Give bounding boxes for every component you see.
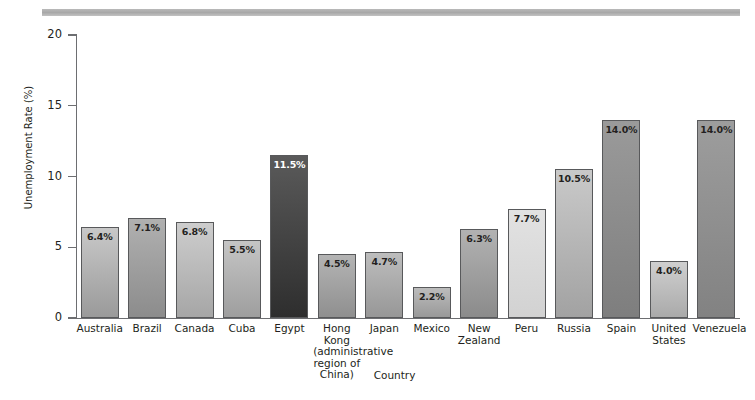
bar[interactable]: 2.2% [413, 287, 451, 318]
bar-rect: 14.0% [602, 120, 640, 318]
bar[interactable]: 10.5% [555, 169, 593, 318]
bar-value-label: 14.0% [698, 125, 734, 135]
y-axis-tick-label: 20 [22, 29, 62, 41]
bar-rect: 5.5% [223, 240, 261, 318]
bar-value-label: 5.5% [224, 245, 260, 255]
y-axis-tick-label: 5 [22, 241, 62, 253]
bar-rect: 2.2% [413, 287, 451, 318]
x-axis-tick-label: United States [645, 323, 692, 346]
bar[interactable]: 11.5% [270, 155, 308, 318]
bar-rect: 10.5% [555, 169, 593, 318]
x-axis-tick-label: Canada [171, 323, 218, 335]
bar-rect: 7.7% [508, 209, 546, 318]
plot-area: 6.4%7.1%6.8%5.5%11.5%4.5%4.7%2.2%6.3%7.7… [76, 35, 740, 318]
bar[interactable]: 4.5% [318, 254, 356, 318]
bar-value-label: 4.5% [319, 259, 355, 269]
bar[interactable]: 6.4% [81, 227, 119, 318]
bar[interactable]: 7.7% [508, 209, 546, 318]
bar-value-label: 6.3% [461, 234, 497, 244]
bar[interactable]: 7.1% [128, 218, 166, 318]
bar[interactable]: 4.7% [365, 252, 403, 319]
bar[interactable]: 6.3% [460, 229, 498, 318]
bar-value-label: 10.5% [556, 174, 592, 184]
bar-value-label: 6.4% [82, 232, 118, 242]
bar[interactable]: 14.0% [602, 120, 640, 318]
bar-rect: 4.5% [318, 254, 356, 318]
bar-value-label: 6.8% [177, 227, 213, 237]
bar-rect: 14.0% [697, 120, 735, 318]
top-rule-divider [42, 9, 740, 16]
x-axis-line [76, 318, 740, 319]
bar-rect: 6.8% [176, 222, 214, 318]
bar-value-label: 2.2% [414, 292, 450, 302]
bar-rect: 6.4% [81, 227, 119, 318]
bar-rect: 4.7% [365, 252, 403, 319]
bar[interactable]: 6.8% [176, 222, 214, 318]
x-axis-title-text: Country [374, 369, 416, 381]
x-axis-tick-label: Russia [550, 323, 597, 335]
y-axis-tick-label: 0 [22, 312, 62, 324]
chart-figure: 05101520 Unemployment Rate (%) 6.4%7.1%6… [0, 0, 755, 400]
x-axis-tick-label: Spain [598, 323, 645, 335]
x-axis-tick-label: Egypt [266, 323, 313, 335]
bar-value-label: 4.7% [366, 257, 402, 267]
x-axis-tick-label: Peru [503, 323, 550, 335]
bar-value-label: 14.0% [603, 125, 639, 135]
x-axis-tick-label: Venezuela [693, 323, 740, 335]
x-axis-tick-label: Cuba [218, 323, 265, 335]
y-axis-title: Unemployment Rate (%) [23, 58, 34, 238]
bar-rect: 4.0% [650, 261, 688, 318]
x-axis-tick-label: Japan [361, 323, 408, 335]
x-axis-tick-label: Mexico [408, 323, 455, 335]
bar[interactable]: 5.5% [223, 240, 261, 318]
x-axis-title: Country [0, 369, 755, 381]
bar-rect: 7.1% [128, 218, 166, 318]
bar[interactable]: 4.0% [650, 261, 688, 318]
bar-value-label: 4.0% [651, 266, 687, 276]
y-axis-ticks: 05101520 [0, 0, 78, 400]
bar[interactable]: 14.0% [697, 120, 735, 318]
bar-value-label: 7.7% [509, 214, 545, 224]
bar-value-label: 11.5% [271, 160, 307, 170]
x-axis-tick-label: New Zealand [455, 323, 502, 346]
x-axis-tick-label: Australia [76, 323, 123, 335]
x-axis-tick-label: Brazil [123, 323, 170, 335]
bar-value-label: 7.1% [129, 223, 165, 233]
bar-rect: 6.3% [460, 229, 498, 318]
bar-rect: 11.5% [270, 155, 308, 318]
